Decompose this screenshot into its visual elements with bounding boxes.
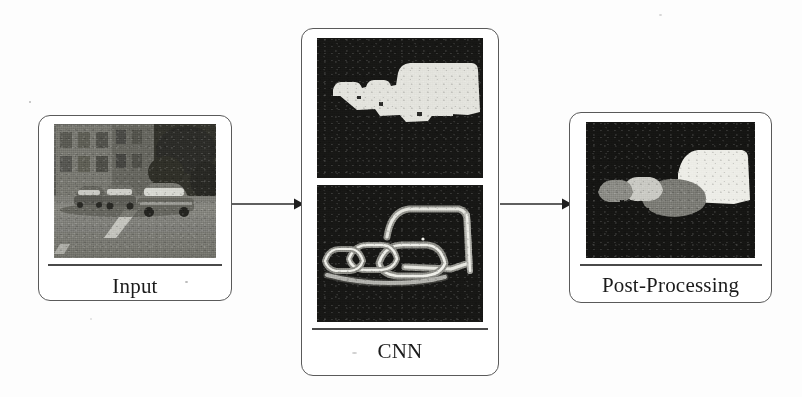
stage-inner-input: Input xyxy=(39,116,231,300)
panel-boundary-map xyxy=(317,185,483,322)
scan-speck xyxy=(29,101,31,103)
panel-street-photo xyxy=(54,124,216,258)
divider-cnn xyxy=(312,328,488,330)
arrow-cnn-to-post xyxy=(500,195,572,213)
instance-segmentation-image xyxy=(586,122,755,258)
arrow-input-to-cnn xyxy=(232,195,304,213)
semantic-mask-image xyxy=(317,38,483,178)
instance-car-1 xyxy=(598,180,633,202)
scan-speck xyxy=(90,318,92,320)
boundary-map-image xyxy=(317,185,483,322)
stage-inner-cnn: CNN xyxy=(302,29,498,375)
stage-label-input: Input xyxy=(112,276,157,297)
stage-label-post-processing: Post-Processing xyxy=(602,275,739,296)
divider-post-processing xyxy=(580,264,762,266)
stage-label-cnn: CNN xyxy=(378,341,423,362)
figure-canvas: Input xyxy=(0,0,802,397)
panel-semantic-mask xyxy=(317,38,483,178)
street-photo-image xyxy=(54,124,216,258)
stage-inner-post-processing: Post-Processing xyxy=(570,113,771,302)
stage-box-input[interactable]: Input xyxy=(38,115,232,301)
scan-speck xyxy=(659,14,662,16)
panel-instance-segmentation xyxy=(586,122,755,258)
stage-box-cnn[interactable]: CNN xyxy=(301,28,499,376)
stage-box-post-processing[interactable]: Post-Processing xyxy=(569,112,772,303)
divider-input xyxy=(48,264,222,266)
